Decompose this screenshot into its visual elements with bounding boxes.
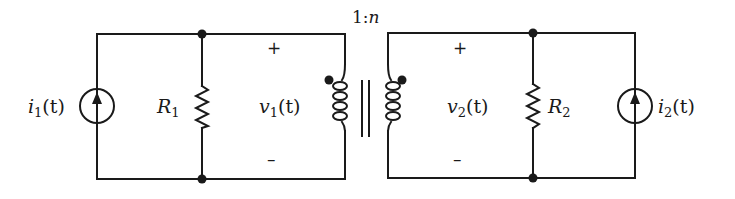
resistor-r2-icon [527, 84, 539, 128]
right-network-wires [388, 33, 635, 178]
transformer-core-icon [362, 81, 369, 136]
circuit-diagram [0, 0, 735, 199]
arrow-up-icon [630, 92, 640, 104]
source-i1-label: i1(t) [28, 97, 65, 119]
v1-plus-sign: + [267, 40, 281, 57]
resistor-r1-label: R1 [157, 97, 180, 119]
primary-winding-icon [333, 64, 347, 131]
resistor-r2-label: R2 [548, 97, 571, 119]
left-network-wires [97, 34, 345, 179]
turns-ratio-label: 1:n [352, 9, 380, 26]
voltage-v2-label: v2(t) [447, 97, 488, 119]
arrow-up-icon [92, 92, 102, 104]
polarity-dot-primary [325, 76, 334, 85]
resistor-r1-icon [196, 86, 208, 128]
polarity-dot-secondary [398, 76, 407, 85]
junction-dot [529, 174, 538, 183]
junction-dot [198, 175, 207, 184]
junction-dot [198, 30, 207, 39]
v2-minus-sign: – [453, 151, 462, 168]
voltage-v1-label: v1(t) [259, 97, 300, 119]
v2-plus-sign: + [453, 40, 467, 57]
secondary-winding-icon [386, 64, 400, 131]
source-i2-label: i2(t) [658, 97, 695, 119]
v1-minus-sign: – [267, 151, 276, 168]
junction-dot [529, 29, 538, 38]
